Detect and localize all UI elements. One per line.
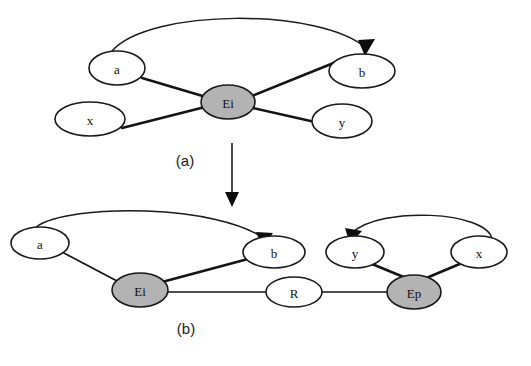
node-ellipse[interactable] (201, 85, 255, 119)
edge-ei-to-y (253, 108, 315, 122)
panel-caption-a: (a) (176, 152, 194, 169)
node-ellipse[interactable] (387, 275, 441, 309)
edge-b-y-to-ep (372, 264, 406, 278)
arc-a-to-b (112, 18, 366, 51)
node-r-panel-b[interactable]: R (266, 277, 322, 307)
node-x-panel-a[interactable]: x (55, 102, 125, 136)
node-y-panel-b[interactable]: y (326, 236, 384, 268)
edge-b-x-to-ep (424, 263, 462, 279)
panel-b: a Ei b R Ep y (11, 211, 507, 337)
node-ei-panel-a[interactable]: Ei (201, 85, 255, 119)
node-ellipse[interactable] (312, 104, 372, 138)
node-ellipse[interactable] (326, 236, 384, 268)
node-ellipse[interactable] (89, 51, 145, 85)
panel-caption-b: (b) (177, 320, 195, 337)
arc-b-a-to-b (36, 211, 266, 240)
node-ellipse[interactable] (329, 54, 395, 88)
edge-x-to-ei (122, 107, 205, 128)
edge-ei-to-b (252, 62, 336, 96)
edge-b-ei-to-b (162, 259, 248, 282)
node-ellipse[interactable] (451, 236, 507, 268)
node-ei-panel-b[interactable]: Ei (112, 273, 168, 307)
panel-a: a x Ei b y (a) (55, 18, 395, 168)
node-ellipse[interactable] (112, 273, 168, 307)
node-a-panel-b[interactable]: a (11, 227, 69, 259)
diagram-root: a x Ei b y (a) (0, 0, 531, 366)
node-ep-panel-b[interactable]: Ep (387, 275, 441, 309)
node-x-panel-b[interactable]: x (451, 236, 507, 268)
node-y-panel-a[interactable]: y (312, 104, 372, 138)
node-ellipse[interactable] (11, 227, 69, 259)
node-ellipse[interactable] (243, 236, 305, 268)
er-decomposition-figure: a x Ei b y (a) (0, 0, 531, 366)
node-b-panel-a[interactable]: b (329, 54, 395, 88)
flow-arrowhead-down-icon (225, 192, 239, 207)
node-a-panel-a[interactable]: a (89, 51, 145, 85)
edge-a-to-ei (142, 78, 206, 97)
transform-flow-arrow (225, 143, 239, 207)
node-ellipse[interactable] (266, 277, 322, 307)
arc-b-x-to-y (352, 215, 492, 239)
edge-b-a-to-ei (62, 252, 117, 281)
node-b-panel-b[interactable]: b (243, 236, 305, 268)
node-ellipse[interactable] (55, 102, 125, 136)
